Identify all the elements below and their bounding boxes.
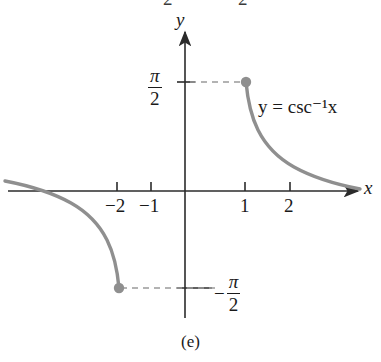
fraction-pi-over-2-negative: π 2	[227, 272, 241, 315]
fraction-numerator: π	[227, 272, 241, 293]
fraction-denominator: 2	[227, 294, 241, 315]
figure-container: 2 2 y x −2 −1 1 2 π 2	[0, 0, 381, 362]
fraction-numerator: π	[148, 66, 162, 87]
curve-equation-label: y = csc⁻¹x	[258, 97, 337, 116]
fraction-denominator: 2	[148, 88, 162, 109]
x-axis-label: x	[364, 178, 372, 197]
y-tick-label-pi-over-2: π 2	[148, 66, 162, 109]
plot-area	[0, 0, 381, 362]
x-tick-label-minus-1: −1	[139, 196, 159, 215]
curve-left-branch	[5, 181, 119, 288]
y-tick-label-negative-pi-over-2: − π 2	[214, 272, 240, 315]
minus-sign: −	[214, 284, 227, 303]
endpoint-dot-lower	[114, 283, 124, 293]
x-tick-label-2: 2	[284, 196, 294, 215]
x-tick-label-1: 1	[240, 196, 250, 215]
y-axis-label: y	[176, 10, 184, 29]
x-tick-label-minus-2: −2	[105, 196, 125, 215]
figure-caption: (e)	[0, 332, 381, 352]
fraction-pi-over-2: π 2	[148, 66, 162, 109]
endpoint-dot-upper	[241, 77, 251, 87]
